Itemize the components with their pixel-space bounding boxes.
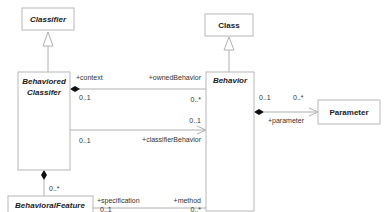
mult-classifier-behavior-target: 0..1 (189, 117, 201, 124)
role-specification: +specification (97, 197, 140, 205)
class-name-classifier: Classifier (30, 15, 67, 24)
composition-diamond-parameter (254, 109, 264, 115)
class-name-parameter: Parameter (329, 108, 368, 117)
mult-features: 0..* (49, 185, 60, 192)
class-name-behaviored-classifier-line2: Classifer (27, 88, 62, 97)
mult-parameter-source: 0..1 (259, 94, 271, 101)
class-name-class: Class (218, 21, 240, 30)
role-owned-behavior: +ownedBehavior (149, 74, 202, 81)
class-box-behavior[interactable] (206, 72, 254, 211)
composition-diamond-features (41, 170, 47, 180)
role-classifier-behavior: +classifierBehavior (142, 136, 202, 143)
mult-context: 0..1 (79, 94, 91, 101)
role-context: +context (76, 74, 103, 81)
mult-method: 0..* (190, 206, 201, 212)
mult-parameter-target: 0..* (293, 94, 304, 101)
class-box-behaviored-classifier[interactable] (18, 72, 70, 170)
mult-classifier-behavior-source: 0..1 (79, 137, 91, 144)
generalization-arrow-classifier (43, 32, 53, 46)
composition-diamond-context (70, 86, 80, 92)
role-parameter: +parameter (268, 117, 305, 125)
mult-owned-behavior: 0..* (190, 96, 201, 103)
uml-class-diagram: Classifier Behaviored Classifer Behavior… (0, 0, 391, 212)
class-name-behavioral-feature: BehavioralFeature (15, 201, 85, 210)
mult-specification: 0..1 (100, 206, 112, 212)
generalization-arrow-class (224, 37, 234, 50)
role-method: +method (174, 197, 202, 204)
class-name-behaviored-classifier-line1: Behaviored (22, 77, 67, 86)
class-name-behavior: Behavior (213, 76, 248, 85)
